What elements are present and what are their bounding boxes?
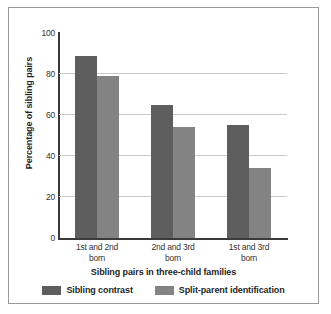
bar[interactable] <box>151 105 173 238</box>
bar-group <box>227 33 271 238</box>
legend-label: Sibling contrast <box>66 285 132 295</box>
x-axis-tick-label-line: 1st and 3rd <box>204 242 294 253</box>
bar-group <box>75 33 119 238</box>
bar[interactable] <box>227 125 249 238</box>
y-axis-tick-label: 80 <box>29 69 55 79</box>
chart-legend: Sibling contrastSplit-parent identificat… <box>9 285 318 295</box>
bar[interactable] <box>75 56 97 238</box>
legend-label: Split-parent identification <box>179 285 285 295</box>
y-axis-tick-labels: 020406080100 <box>25 8 55 305</box>
x-axis-tick-label-line: born <box>204 253 294 264</box>
y-axis-tick-label: 20 <box>29 192 55 202</box>
legend-swatch <box>155 286 174 295</box>
legend-item[interactable]: Split-parent identification <box>155 285 285 295</box>
x-axis-tick-label: 1st and 3rdborn <box>204 242 294 264</box>
chart-figure: Percentage of sibling pairs 020406080100… <box>8 7 319 304</box>
plot-area <box>59 33 287 238</box>
y-axis-tick-label: 100 <box>29 28 55 38</box>
bar[interactable] <box>97 76 119 238</box>
y-axis-tick-label: 60 <box>29 110 55 120</box>
x-axis-line <box>58 238 288 240</box>
y-axis-tick-label: 40 <box>29 151 55 161</box>
bar[interactable] <box>249 168 271 238</box>
legend-swatch <box>42 286 61 295</box>
x-axis-title: Sibling pairs in three-child families <box>9 267 318 277</box>
legend-item[interactable]: Sibling contrast <box>42 285 132 295</box>
bar[interactable] <box>173 127 195 238</box>
bar-group <box>151 33 195 238</box>
